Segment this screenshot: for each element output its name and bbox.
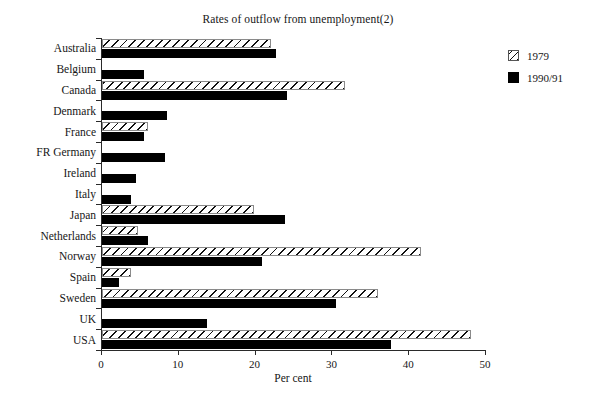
- x-axis-tick: [331, 350, 332, 355]
- y-axis-category-label: UK: [0, 313, 96, 325]
- x-axis-tick-label: 40: [403, 358, 414, 370]
- y-axis-category-label: Denmark: [0, 105, 96, 117]
- plot-area: 01020304050AustraliaBelgiumCanadaDenmark…: [101, 38, 485, 350]
- x-axis-tick: [101, 350, 102, 355]
- y-axis-category-label: Australia: [0, 42, 96, 54]
- y-axis-tick: [96, 267, 101, 268]
- bar-1979: [102, 226, 138, 235]
- y-axis-category-label: USA: [0, 334, 96, 346]
- x-axis-tick: [255, 350, 256, 355]
- bar-1979: [102, 122, 148, 131]
- y-axis-tick: [96, 100, 101, 101]
- bar-1979: [102, 39, 271, 48]
- bar-1990-91: [102, 215, 285, 224]
- bar-1990-91: [102, 257, 262, 266]
- y-axis-category-label: Sweden: [0, 292, 96, 304]
- bar-1990-91: [102, 111, 167, 120]
- bar-1979: [102, 205, 254, 214]
- chart-container: Rates of outflow from unemployment(2) 01…: [0, 0, 596, 402]
- y-axis-tick: [96, 329, 101, 330]
- legend-item-1979: 1979: [508, 47, 592, 64]
- bar-1990-91: [102, 340, 391, 349]
- y-axis-category-label: Spain: [0, 271, 96, 283]
- y-axis-tick: [96, 142, 101, 143]
- y-axis-tick: [96, 204, 101, 205]
- bar-1990-91: [102, 153, 165, 162]
- bar-1990-91: [102, 278, 119, 287]
- bar-1990-91: [102, 49, 276, 58]
- y-axis-tick: [96, 38, 101, 39]
- x-axis-tick: [408, 350, 409, 355]
- y-axis-tick: [96, 163, 101, 164]
- bar-1979: [102, 289, 378, 298]
- bar-1979: [102, 247, 421, 256]
- bar-1990-91: [102, 91, 287, 100]
- legend-item-1990-91: 1990/91: [508, 69, 592, 86]
- y-axis-tick: [96, 80, 101, 81]
- y-axis-category-label: Japan: [0, 209, 96, 221]
- bar-1979: [102, 330, 471, 339]
- y-axis-tick: [96, 59, 101, 60]
- y-axis-category-label: Netherlands: [0, 230, 96, 242]
- bar-1990-91: [102, 195, 131, 204]
- y-axis-tick: [96, 184, 101, 185]
- y-axis-tick: [96, 246, 101, 247]
- bar-1990-91: [102, 132, 144, 141]
- y-axis-tick: [96, 288, 101, 289]
- x-axis-tick: [178, 350, 179, 355]
- bar-1979: [102, 268, 131, 277]
- bar-1990-91: [102, 299, 336, 308]
- bar-1979: [102, 81, 345, 90]
- legend-label-1979: 1979: [527, 50, 549, 62]
- solid-swatch-icon: [508, 72, 519, 83]
- y-axis-tick: [96, 350, 101, 351]
- y-axis-category-label: Canada: [0, 84, 96, 96]
- chart-legend: 1979 1990/91: [508, 47, 592, 91]
- bar-1990-91: [102, 174, 136, 183]
- hatched-swatch-icon: [508, 50, 519, 61]
- chart-title: Rates of outflow from unemployment(2): [0, 13, 596, 25]
- x-axis-line: [101, 350, 485, 351]
- x-axis-tick-label: 10: [172, 358, 183, 370]
- y-axis-category-label: Ireland: [0, 167, 96, 179]
- y-axis-tick: [96, 121, 101, 122]
- y-axis-category-label: Italy: [0, 188, 96, 200]
- bar-1990-91: [102, 70, 144, 79]
- x-axis-tick-label: 50: [480, 358, 491, 370]
- y-axis-category-label: Norway: [0, 250, 96, 262]
- x-axis-label: Per cent: [101, 372, 485, 384]
- x-axis-tick-label: 20: [249, 358, 260, 370]
- bar-1990-91: [102, 236, 148, 245]
- y-axis-tick: [96, 225, 101, 226]
- x-axis-tick-label: 0: [98, 358, 104, 370]
- y-axis-category-label: FR Germany: [0, 146, 96, 158]
- y-axis-tick: [96, 308, 101, 309]
- x-axis-tick: [485, 350, 486, 355]
- x-axis-tick-label: 30: [326, 358, 337, 370]
- y-axis-category-label: France: [0, 126, 96, 138]
- bar-1990-91: [102, 319, 207, 328]
- y-axis-category-label: Belgium: [0, 63, 96, 75]
- legend-label-1990-91: 1990/91: [527, 72, 563, 84]
